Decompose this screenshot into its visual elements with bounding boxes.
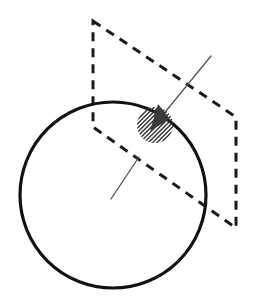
background-rect (0, 0, 257, 307)
figure-canvas (0, 0, 257, 307)
sphere-cutting-plane-diagram (0, 0, 257, 307)
